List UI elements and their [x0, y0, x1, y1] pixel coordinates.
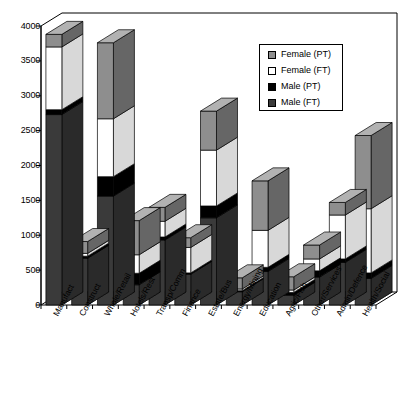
legend-swatch-male-pt: [268, 83, 276, 91]
bar-segment-Estate/Bus-Female (PT): [201, 111, 217, 150]
bar-segment-Manufact-Female (PT): [46, 34, 62, 47]
stacked-bar-chart: 0 500 1000 1500 2000 2500 3000 3500 4000…: [0, 0, 402, 407]
legend-label-male-ft: Male (FT): [281, 98, 320, 107]
bar-segment-Manufact-Female (FT): [46, 47, 62, 110]
legend-item-male-ft[interactable]: Male (FT): [268, 98, 320, 107]
legend-swatch-female-pt: [268, 51, 276, 59]
bar-segment-Admin/Defence-Female (PT): [329, 202, 345, 215]
legend-label-female-pt: Female (PT): [281, 50, 331, 59]
legend-item-male-pt[interactable]: Male (PT): [268, 82, 321, 91]
bar-segment-Estate/Bus-Female (FT): [201, 150, 217, 206]
legend-swatch-male-ft: [268, 99, 276, 107]
legend-swatch-female-ft: [268, 67, 276, 75]
bar-side-Health/Social-Female (PT): [371, 123, 392, 209]
legend-item-female-ft[interactable]: Female (FT): [268, 66, 331, 75]
legend-label-male-pt: Male (PT): [281, 82, 321, 91]
bar-segment-Education-Female (PT): [252, 181, 268, 231]
bar-segment-Manufact-Male (FT): [46, 115, 62, 305]
bar-segment-Estate/Bus-Male (PT): [201, 206, 217, 218]
bar-side-Health/Social-Female (FT): [371, 196, 392, 273]
legend-label-female-ft: Female (FT): [281, 66, 331, 75]
bar-side-Manufact-Male (FT): [62, 102, 83, 305]
bar-segment-Whole/Retail-Male (PT): [97, 177, 113, 197]
legend-item-female-pt[interactable]: Female (PT): [268, 50, 331, 59]
bar-segment-Whole/Retail-Female (PT): [97, 43, 113, 119]
bar-segment-Manufact-Male (PT): [46, 110, 62, 115]
bar-side-Whole/Retail-Female (PT): [113, 30, 134, 119]
bar-segment-Other/Services-Female (PT): [304, 245, 320, 259]
bar-segment-Education-Female (FT): [252, 230, 268, 267]
bar-segment-Whole/Retail-Female (FT): [97, 119, 113, 177]
